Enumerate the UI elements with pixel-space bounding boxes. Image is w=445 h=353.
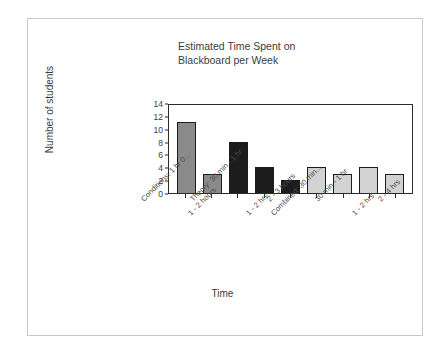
y-tick-label: 6	[158, 150, 163, 160]
bar-slot	[356, 105, 382, 193]
y-tick-label: 8	[158, 138, 163, 148]
bar-slot	[251, 105, 277, 193]
y-tick-label: 14	[154, 99, 163, 109]
bar	[359, 167, 378, 193]
chart-title: Estimated Time Spent on Blackboard per W…	[178, 40, 368, 67]
y-tick-label: 10	[154, 125, 163, 135]
x-axis-title: Time	[0, 288, 445, 299]
y-tick-label: 0	[158, 189, 163, 199]
bar-slot	[173, 105, 199, 193]
y-tick-label: 12	[154, 112, 163, 122]
y-axis-title: Number of students	[44, 55, 55, 165]
x-axis-tick-labels: Conditions: 1 hr 0...1 - 2 hoursTheory: …	[168, 197, 413, 269]
